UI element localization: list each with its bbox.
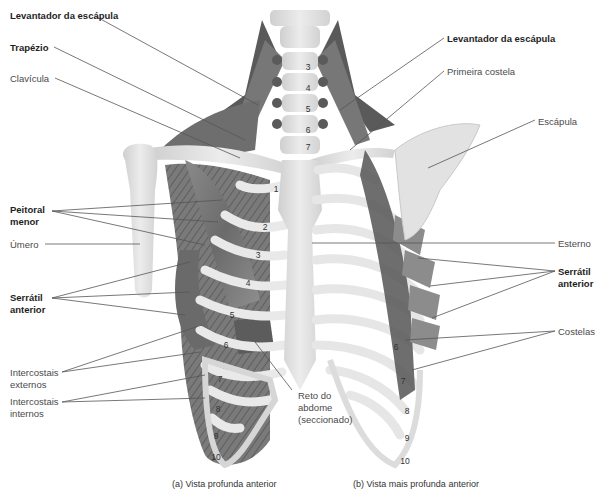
cervical-spine	[270, 10, 330, 154]
label-levantador-escapula-left: Levantador da escápula	[10, 10, 118, 22]
label-esterno: Esterno	[558, 238, 591, 250]
label-serratil-anterior-left: Serrátil anterior	[10, 292, 45, 316]
svg-text:9: 9	[214, 431, 219, 441]
scapula	[395, 124, 480, 240]
svg-text:1: 1	[274, 184, 279, 194]
svg-text:8: 8	[405, 406, 410, 416]
label-reto-abdome: Reto do abdome (seccionado)	[298, 390, 352, 426]
svg-text:5: 5	[230, 310, 235, 320]
svg-text:7: 7	[218, 374, 223, 384]
svg-text:10: 10	[211, 452, 221, 462]
svg-text:6: 6	[224, 340, 229, 350]
svg-text:4: 4	[306, 83, 311, 93]
svg-text:9: 9	[405, 433, 410, 443]
svg-text:7: 7	[306, 142, 311, 152]
svg-text:2: 2	[263, 222, 268, 232]
label-levantador-escapula-right: Levantador da escápula	[447, 33, 555, 45]
svg-text:3: 3	[256, 250, 261, 260]
svg-text:3: 3	[306, 62, 311, 72]
svg-text:6: 6	[306, 125, 311, 135]
label-umero: Úmero	[10, 239, 39, 251]
svg-text:10: 10	[400, 456, 410, 466]
sternum	[278, 160, 322, 390]
svg-text:7: 7	[401, 376, 406, 386]
label-trapezio: Trapézio	[10, 42, 49, 54]
humerus	[123, 144, 157, 298]
label-intercostais-internos: Intercostais internos	[10, 396, 59, 420]
svg-text:6: 6	[394, 342, 399, 352]
label-serratil-anterior-right: Serrátil anterior	[558, 266, 593, 290]
label-peitoral-menor: Peitoral menor	[10, 204, 45, 228]
label-primeira-costela: Primeira costela	[447, 66, 515, 78]
svg-text:4: 4	[246, 278, 251, 288]
label-escapula: Escápula	[538, 116, 577, 128]
svg-text:8: 8	[216, 404, 221, 414]
svg-text:5: 5	[306, 104, 311, 114]
label-intercostais-externos: Intercostais externos	[10, 367, 59, 391]
caption-view-b: (b) Vista mais profunda anterior	[353, 479, 479, 489]
caption-view-a: (a) Vista profunda anterior	[172, 479, 276, 489]
label-clavicula: Clavícula	[10, 73, 49, 85]
label-costelas: Costelas	[558, 326, 595, 338]
